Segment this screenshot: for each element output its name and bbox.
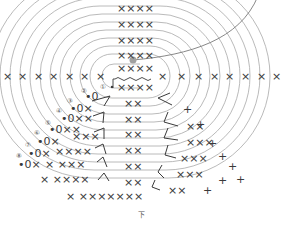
svg-text:××: ××: [124, 176, 142, 189]
svg-text:× ×××××××: × ×××××××: [66, 190, 143, 203]
svg-text:××××: ××××: [117, 34, 154, 47]
svg-text:+: +: [183, 103, 192, 116]
svg-text:×: ×: [194, 70, 203, 83]
svg-text:+: +: [228, 160, 237, 173]
svg-text:×: ×: [80, 70, 89, 83]
svg-text:××: ××: [124, 160, 142, 173]
center-chain: ×××× ①: [100, 78, 154, 95]
svg-text:①: ①: [100, 83, 106, 91]
svg-text:+: +: [218, 150, 227, 163]
svg-text:××××: ××××: [117, 49, 154, 62]
svg-text:××: ××: [124, 128, 142, 141]
svg-text:×: ×: [272, 70, 281, 83]
svg-text:×: ×: [49, 70, 58, 83]
svg-text:×: ×: [18, 70, 27, 83]
svg-text:+: +: [203, 184, 212, 197]
svg-text:×: ×: [210, 70, 219, 83]
svg-text:×: ×: [34, 70, 43, 83]
svg-text:×××: ×××: [176, 168, 204, 181]
right-diagonal-stitches: + + ×× + ××× + ××× + ××× + ×× + +: [168, 103, 245, 197]
svg-text:•0×: •0×: [18, 158, 41, 171]
svg-text:× ×××: × ×××: [45, 158, 85, 171]
svg-text:×: ×: [225, 70, 234, 83]
svg-text:× ××××: × ××××: [40, 173, 90, 186]
svg-text:×: ×: [177, 70, 186, 83]
crochet-chart: ×××× ×××× ×××× ×××× ×××× ×××× ① × × × × …: [0, 0, 283, 239]
svg-text:××××: ××××: [117, 62, 154, 75]
svg-text:+: +: [218, 174, 227, 187]
svg-text:×××: ×××: [186, 136, 214, 149]
svg-text:×: ×: [158, 70, 167, 83]
right-increases: [152, 93, 178, 190]
left-diagonal-stitches: ② •0 ③ •0× ④ •0×× ⑤ •0×× ××× ⑥ •0× ×××× …: [16, 87, 100, 186]
svg-text:××: ××: [186, 120, 204, 133]
svg-text:×: ×: [65, 70, 74, 83]
svg-text:×××: ×××: [72, 130, 100, 143]
svg-text:××××: ××××: [55, 145, 92, 158]
svg-text:×: ×: [3, 70, 12, 83]
svg-text:××: ××: [124, 113, 142, 126]
svg-text:××: ××: [168, 184, 186, 197]
direction-label: 下: [138, 211, 145, 219]
svg-text:××××: ××××: [117, 18, 154, 31]
top-rows: ×××× ×××× ×××× ×××× ××××: [117, 2, 154, 75]
svg-text:××: ××: [124, 144, 142, 157]
svg-text:××××: ××××: [117, 81, 154, 94]
svg-text:+: +: [236, 173, 245, 186]
svg-text:××: ××: [124, 97, 142, 110]
svg-text:××××: ××××: [117, 2, 154, 15]
svg-text:×: ×: [241, 70, 250, 83]
svg-text:×: ×: [257, 70, 266, 83]
svg-text:×××: ×××: [180, 152, 208, 165]
svg-text:×: ×: [96, 70, 105, 83]
